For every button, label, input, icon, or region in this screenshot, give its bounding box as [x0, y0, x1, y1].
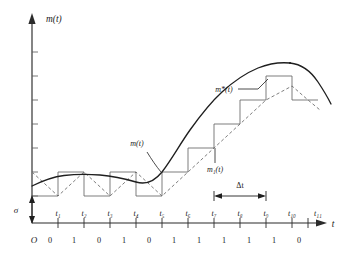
x-axis-label: t	[332, 219, 335, 229]
tick-label-t8: t₈	[237, 209, 242, 218]
label-delayed-signal: m₁(t)	[207, 165, 223, 174]
leader-line-m-star	[238, 79, 268, 89]
message-signal-m	[32, 63, 331, 186]
tick-label-t1: t₁	[55, 209, 60, 218]
tick-label-t9: t₉	[263, 209, 268, 218]
delta-modulation-figure: m(t) m₁(t) m*(t) Δt σ m(t) t	[0, 0, 342, 253]
staircase-signal-m-star	[32, 76, 318, 196]
y-axis-ticks	[32, 52, 38, 196]
x-axis-arrowhead	[316, 219, 327, 226]
bit-9: 1	[272, 236, 276, 245]
peak-sample-dot	[289, 62, 291, 64]
bit-0: 0	[48, 236, 52, 245]
tick-label-t10: t₁₀	[288, 209, 296, 218]
bit-2: 0	[97, 236, 101, 245]
tick-label-t11: t₁₁	[314, 209, 322, 218]
tick-label-t2: t₂	[81, 209, 86, 218]
sample-tick-labels: t₁ t₂ t₃ t₄ t₅ t₆ t₇ t₈ t₉ t₁₀ t₁₁	[55, 209, 322, 218]
bit-6: 1	[197, 236, 201, 245]
axis-group	[28, 13, 327, 228]
bit-3: 1	[122, 236, 126, 245]
delta-t-arrowhead-right	[258, 193, 266, 199]
sigma-dimension: σ	[14, 195, 35, 224]
tick-label-t7: t₇	[211, 209, 216, 218]
tick-label-t4: t₄	[133, 209, 138, 218]
y-axis-arrowhead	[28, 13, 35, 24]
bit-4: 0	[147, 236, 151, 245]
bit-stream-row: 0 1 0 1 0 1 1 1 1 1 0	[48, 236, 301, 245]
leader-line-m	[147, 152, 161, 172]
bit-7: 1	[222, 236, 226, 245]
tick-label-t5: t₅	[159, 209, 164, 218]
sigma-label: σ	[14, 205, 19, 215]
delayed-signal-m1	[32, 86, 320, 196]
bit-8: 1	[247, 236, 251, 245]
waveform-plot: m(t) m₁(t) m*(t) Δt σ m(t) t	[0, 0, 342, 253]
label-message-signal: m(t)	[130, 139, 144, 148]
delta-t-arrowhead-left	[214, 193, 222, 199]
label-staircase-signal: m*(t)	[215, 85, 233, 94]
delta-t-label: Δt	[236, 181, 244, 190]
origin-label: O	[31, 235, 38, 245]
label-m-of-t-group: m(t)	[130, 139, 161, 172]
tick-label-t3: t₃	[107, 209, 112, 218]
tick-label-t6: t₆	[185, 209, 190, 218]
y-axis-label: m(t)	[46, 14, 62, 25]
delta-t-dimension: Δt	[214, 181, 266, 201]
bit-1: 1	[72, 236, 76, 245]
bit-10: 0	[297, 236, 301, 245]
label-m-star-of-t-group: m*(t)	[215, 79, 268, 94]
bit-5: 1	[172, 236, 176, 245]
